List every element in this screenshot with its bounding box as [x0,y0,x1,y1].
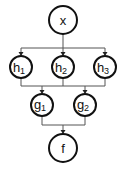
node-x-label: x [60,13,67,28]
node-h3-label: h [97,60,104,75]
node-h2-label: h [55,60,62,75]
node-h1-label: h [13,60,20,75]
node-g1-label: g [34,97,41,112]
node-g2-label: g [77,97,84,112]
edge-h-to-g [21,78,105,94]
node-h1-subscript: 1 [20,66,25,76]
node-f-label: f [61,141,65,156]
node-h2: h2 [52,56,74,78]
node-g1-subscript: 1 [41,103,46,113]
node-g1: g1 [31,94,53,116]
edge-g-to-f [42,116,85,134]
node-x: x [49,6,77,34]
node-f: f [49,134,77,162]
edge-x-to-h [19,34,108,56]
node-h3: h3 [94,56,116,78]
node-h3-subscript: 3 [104,66,109,76]
node-h2-subscript: 2 [62,66,67,76]
computation-graph: x h1 h2 h3 g1 g2 f [0,0,126,171]
node-g2: g2 [74,94,96,116]
node-h1: h1 [10,56,32,78]
node-g2-subscript: 2 [84,103,89,113]
